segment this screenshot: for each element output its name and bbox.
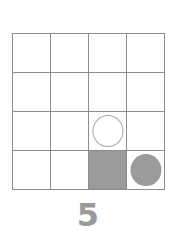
cell-r2c1[interactable]	[13, 73, 51, 112]
cell-r4c1[interactable]	[13, 151, 51, 190]
grid-container	[12, 33, 165, 190]
cell-r1c4[interactable]	[127, 34, 165, 73]
white-circle-shape	[92, 115, 123, 147]
cell-r2c4[interactable]	[127, 73, 165, 112]
cell-r2c3[interactable]	[89, 73, 127, 112]
puzzle-grid	[12, 33, 165, 190]
cell-r4c2[interactable]	[51, 151, 89, 190]
cell-r3c3[interactable]	[89, 112, 127, 151]
cell-r1c1[interactable]	[13, 34, 51, 73]
cell-r4c3[interactable]	[89, 151, 127, 190]
cell-r4c4[interactable]	[127, 151, 165, 190]
cell-r3c2[interactable]	[51, 112, 89, 151]
cell-r3c4[interactable]	[127, 112, 165, 151]
cell-r1c2[interactable]	[51, 34, 89, 73]
gray-circle-shape	[130, 154, 161, 186]
cell-r1c3[interactable]	[89, 34, 127, 73]
caption-number: 5	[0, 196, 176, 234]
puzzle-figure: 5	[0, 0, 176, 238]
cell-r3c1[interactable]	[13, 112, 51, 151]
cell-r2c2[interactable]	[51, 73, 89, 112]
